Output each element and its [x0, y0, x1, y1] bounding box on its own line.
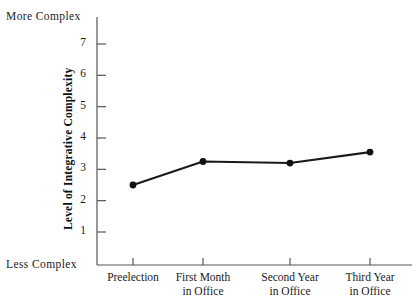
y-tick-label: 2	[66, 193, 86, 205]
data-point	[367, 149, 374, 156]
y-axis-ticks	[97, 44, 106, 232]
x-tick-label: Second Year in Office	[245, 270, 335, 299]
y-tick-label: 6	[66, 67, 86, 79]
data-point	[200, 158, 207, 165]
data-point-markers	[130, 149, 374, 189]
y-tick-label: 7	[66, 36, 86, 48]
x-tick-label: First Month in Office	[158, 270, 248, 299]
data-point	[130, 182, 137, 189]
y-tick-label: 5	[66, 99, 86, 111]
integrative-complexity-chart: More Complex Less Complex Level of Integ…	[0, 0, 416, 304]
y-tick-label: 1	[66, 224, 86, 236]
x-tick-label: Third Year in Office	[325, 270, 415, 299]
x-axis-ticks	[133, 258, 370, 265]
y-tick-label: 3	[66, 161, 86, 173]
y-tick-label: 4	[66, 130, 86, 142]
data-point	[287, 160, 294, 167]
chart-plot-area	[0, 0, 416, 304]
data-series-line	[133, 152, 370, 185]
axis-lines	[97, 17, 412, 265]
